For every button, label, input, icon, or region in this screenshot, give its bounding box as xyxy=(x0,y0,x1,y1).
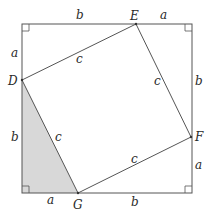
right-angle-top-left-icon xyxy=(22,24,29,31)
point-g-label: G xyxy=(73,198,83,212)
pythagorean-diagram: E D F G b a a b b a a b c c c c xyxy=(0,0,211,216)
side-ef-c-label: c xyxy=(154,74,161,88)
side-fg-c-label: c xyxy=(131,152,138,166)
left-a-label: a xyxy=(11,46,18,60)
point-e-label: E xyxy=(129,9,139,23)
left-b-label: b xyxy=(11,130,19,144)
top-b-label: b xyxy=(76,8,84,22)
right-angle-top-right-icon xyxy=(185,24,192,31)
top-a-label: a xyxy=(160,8,167,22)
right-b-label: b xyxy=(195,74,203,88)
point-f-label: F xyxy=(194,130,204,144)
right-angle-bottom-right-icon xyxy=(185,186,192,193)
right-a-label: a xyxy=(195,158,202,172)
bottom-b-label: b xyxy=(131,195,139,209)
point-d-label: D xyxy=(7,74,18,88)
side-de-c-label: c xyxy=(76,52,83,66)
side-gd-c-label: c xyxy=(55,130,62,144)
bottom-a-label: a xyxy=(47,193,54,207)
